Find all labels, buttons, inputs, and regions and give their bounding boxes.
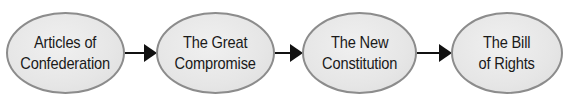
arrow-right-icon [417, 46, 452, 60]
node-label-line: of Rights [479, 53, 535, 74]
node-label-line: The New [322, 32, 397, 53]
node-label: The Bill of Rights [479, 32, 535, 74]
node-the-great-compromise: The Great Compromise [156, 12, 275, 94]
node-label-line: Articles of [21, 32, 111, 53]
node-label-line: The Bill [479, 32, 535, 53]
node-label: Articles of Confederation [21, 32, 111, 74]
node-label: The Great Compromise [175, 32, 256, 74]
arrow-right-icon [125, 46, 157, 60]
node-the-bill-of-rights: The Bill of Rights [451, 12, 563, 94]
node-label-line: The Great [175, 32, 256, 53]
node-label-line: Confederation [21, 53, 111, 74]
flow-diagram: Articles of Confederation The Great Comp… [0, 0, 570, 101]
arrow-right-icon [275, 46, 303, 60]
arrow-shaft [417, 52, 440, 54]
node-articles-of-confederation: Articles of Confederation [6, 12, 125, 94]
node-label: The New Constitution [322, 32, 397, 74]
node-label-line: Compromise [175, 53, 256, 74]
arrow-shaft [125, 52, 145, 54]
arrow-shaft [275, 52, 291, 54]
node-label-line: Constitution [322, 53, 397, 74]
node-the-new-constitution: The New Constitution [302, 12, 417, 94]
